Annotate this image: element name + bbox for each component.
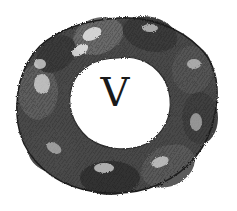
center-letter: V [0,72,230,112]
